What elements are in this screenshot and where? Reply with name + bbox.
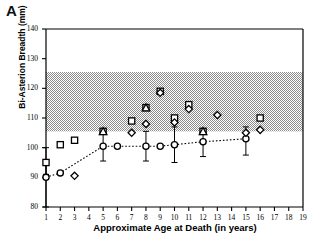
- data-point-open-circle: [157, 143, 163, 149]
- data-point-open-square: [57, 142, 63, 148]
- y-tick-label: 100: [12, 143, 38, 152]
- data-point-open-square: [257, 115, 263, 121]
- data-point-open-square: [71, 137, 77, 143]
- y-tick-label: 90: [12, 172, 38, 181]
- data-point-open-diamond: [71, 172, 78, 179]
- data-point-open-circle: [200, 139, 206, 145]
- data-point-open-circle: [114, 143, 120, 149]
- chart-figure: 8090100110120130140 12345678910111213141…: [0, 0, 320, 244]
- y-axis-title: Bi-Asterion Breadth (mm): [17, 0, 27, 137]
- data-point-open-circle: [171, 142, 177, 148]
- y-tick-label: 80: [12, 202, 38, 211]
- data-point-open-circle: [143, 143, 149, 149]
- data-point-open-circle: [43, 174, 49, 180]
- scatter-plot-svg: [0, 0, 320, 244]
- x-axis-title: Approximate Age at Death (in years): [46, 222, 304, 233]
- data-point-open-square: [43, 159, 49, 165]
- data-point-open-circle: [57, 170, 63, 176]
- x-tick-label: 19: [295, 213, 311, 222]
- data-point-open-square: [129, 118, 135, 124]
- data-point-open-circle: [100, 143, 106, 149]
